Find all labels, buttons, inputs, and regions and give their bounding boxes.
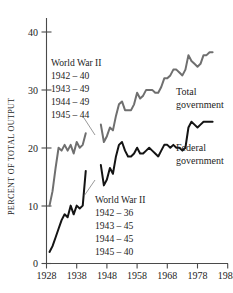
y-tick-label-10: 10 bbox=[28, 201, 38, 212]
x-tick-label-1978: 1978 bbox=[188, 270, 208, 281]
y-tick-label-20: 20 bbox=[28, 143, 38, 154]
annotation-total-row-1945: 1945 – 44 bbox=[51, 109, 90, 120]
x-tick-label-1948: 1948 bbox=[97, 270, 117, 281]
annotation-total-row-1944: 1944 – 49 bbox=[51, 96, 90, 107]
y-axis-title: PERCENT OF TOTAL OUTPUT bbox=[7, 97, 16, 215]
annotation-federal-row-1943: 1943 – 45 bbox=[95, 220, 134, 231]
annotation-federal-row-1944: 1944 – 45 bbox=[95, 233, 134, 244]
annotation-total-title: World War II bbox=[51, 57, 102, 68]
chart-figure: 40 30 20 10 0 1928 1938 1948 1958 1968 1… bbox=[0, 0, 233, 293]
annotation-federal-row-1942: 1942 – 36 bbox=[95, 207, 134, 218]
annotation-total-row-1942: 1942 – 40 bbox=[51, 70, 90, 81]
series-label-federal: Federal government bbox=[176, 142, 224, 166]
x-tick-label-1968: 1968 bbox=[157, 270, 177, 281]
series-label-total-line2: government bbox=[176, 99, 224, 110]
x-tick-label-1988: 1988 bbox=[218, 270, 233, 281]
annotation-federal-title: World War II bbox=[95, 194, 146, 205]
annotation-wwii-federal: World War II 1942 – 36 1943 – 45 1944 – … bbox=[95, 194, 146, 257]
series-label-total-line1: Total bbox=[176, 86, 197, 97]
annotation-federal-row-1945: 1945 – 40 bbox=[95, 246, 134, 257]
y-tick-label-30: 30 bbox=[28, 85, 38, 96]
series-total-government-prewar bbox=[50, 133, 86, 205]
series-label-federal-line2: government bbox=[176, 155, 224, 166]
y-tick-label-0: 0 bbox=[33, 258, 38, 269]
series-total-government-postwar bbox=[101, 52, 213, 142]
chart-plot-area: 40 30 20 10 0 1928 1938 1948 1958 1968 1… bbox=[0, 0, 233, 293]
x-tick-label-1928: 1928 bbox=[37, 270, 57, 281]
series-label-total: Total government bbox=[176, 86, 224, 110]
annotation-wwii-total: World War II 1942 – 40 1943 – 49 1944 – … bbox=[51, 57, 102, 120]
y-tick-label-40: 40 bbox=[28, 27, 38, 38]
x-tick-label-1958: 1958 bbox=[127, 270, 147, 281]
series-federal-government-prewar bbox=[50, 171, 86, 252]
x-tick-label-1938: 1938 bbox=[67, 270, 87, 281]
x-axis-ticks bbox=[47, 264, 228, 269]
annotation-total-row-1943: 1943 – 49 bbox=[51, 83, 90, 94]
series-federal-government-postwar bbox=[101, 122, 213, 186]
series-label-federal-line1: Federal bbox=[176, 142, 206, 153]
